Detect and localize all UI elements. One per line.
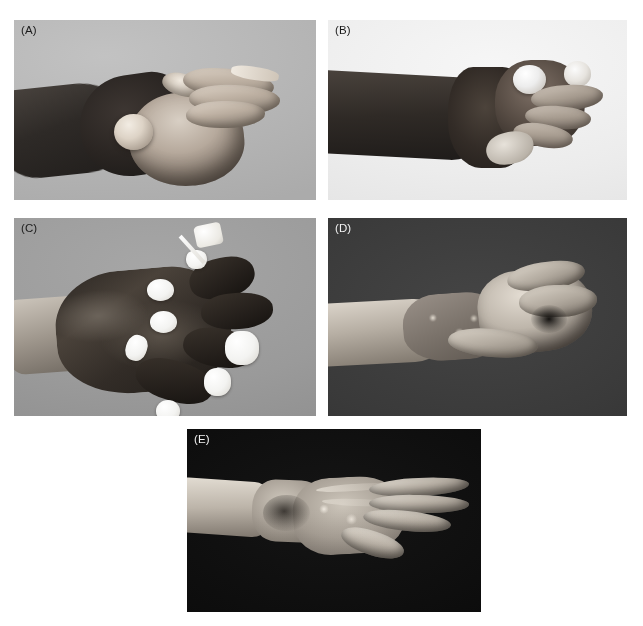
figure-panel-c: (C)	[14, 218, 316, 416]
panel-c-dressing-pledget-2	[150, 311, 177, 333]
photo-e	[187, 429, 481, 612]
panel-c-dressing-pledget-1	[147, 279, 174, 301]
figure-panel-b: (B)	[328, 20, 627, 200]
figure-sheet: (A) (B)	[0, 0, 643, 626]
panel-label-a: (A)	[21, 25, 37, 37]
panel-label-c: (C)	[21, 223, 37, 235]
panel-c-dressing-pledget-4	[225, 331, 258, 365]
panel-b-blister-2	[564, 61, 591, 86]
panel-label-e: (E)	[194, 434, 210, 446]
panel-d-web-space-shadow	[531, 305, 567, 333]
panel-a-blister	[114, 114, 153, 150]
panel-label-b: (B)	[335, 25, 351, 37]
photo-b	[328, 20, 627, 200]
figure-panel-a: (A)	[14, 20, 316, 200]
photo-a	[14, 20, 316, 200]
panel-c-dressing-pledget-6	[156, 400, 180, 416]
panel-c-dressing-pledget-5	[204, 368, 231, 396]
panel-label-d: (D)	[335, 223, 351, 235]
figure-panel-d: (D)	[328, 218, 627, 416]
figure-panel-e: (E)	[187, 429, 481, 612]
photo-c	[14, 218, 316, 416]
photo-d	[328, 218, 627, 416]
